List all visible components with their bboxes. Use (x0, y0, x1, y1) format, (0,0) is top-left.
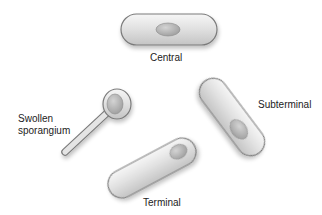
subterminal-label: Subterminal (258, 99, 311, 110)
terminal-cell (103, 133, 201, 203)
central-spore (156, 23, 180, 36)
central-cell (121, 14, 217, 45)
swollen-label-line1: Swollen (18, 113, 53, 124)
swollen-sporangium-cell (65, 89, 131, 152)
terminal-label: Terminal (143, 197, 181, 208)
endospore-diagram: Central Subterminal Terminal Swollen spo… (0, 0, 322, 215)
swollen-label-line2: sporangium (18, 125, 70, 136)
central-label: Central (150, 52, 182, 63)
subterminal-cell (194, 73, 271, 162)
swollen-spore (107, 94, 123, 114)
